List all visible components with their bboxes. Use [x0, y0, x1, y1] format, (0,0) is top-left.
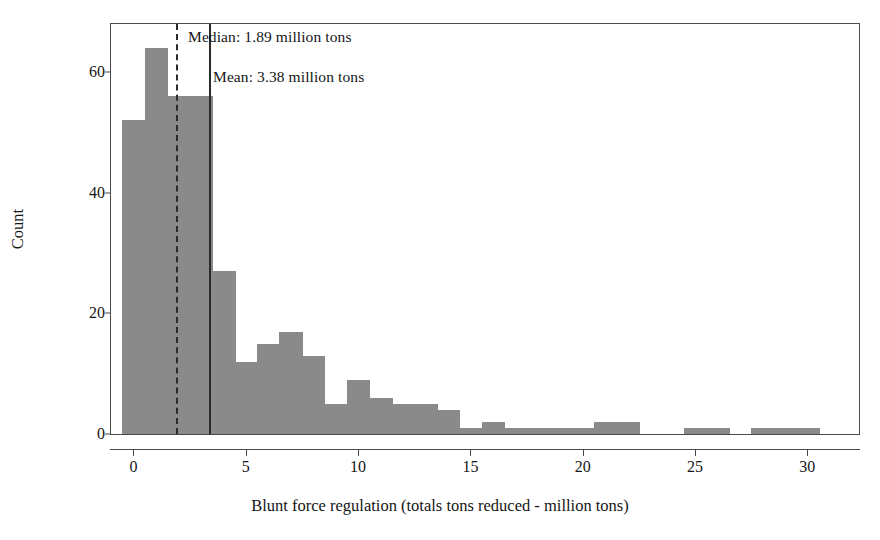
x-axis-tick-label: 15: [462, 458, 478, 476]
histogram-bar: [369, 398, 392, 434]
histogram-bar: [549, 428, 572, 434]
x-axis-tick-label: 20: [575, 458, 591, 476]
y-axis-tick-label: 0: [97, 425, 105, 443]
x-axis-tick-mark: [133, 449, 134, 456]
y-axis-tick-label: 20: [89, 304, 105, 322]
x-axis-tick-label: 30: [799, 458, 815, 476]
histogram-bar: [796, 428, 819, 434]
histogram-bar: [437, 410, 460, 434]
x-axis-tick-label: 5: [242, 458, 250, 476]
histogram-bar: [459, 428, 482, 434]
histogram-bar: [279, 332, 302, 435]
histogram-bar: [414, 404, 437, 434]
histogram-bar: [167, 96, 190, 434]
x-axis-tick-mark: [807, 449, 808, 456]
histogram-bar: [571, 428, 594, 434]
x-axis-tick-label: 25: [687, 458, 703, 476]
y-axis-tick-mark: [105, 313, 111, 314]
x-axis-tick-label: 10: [350, 458, 366, 476]
histogram-bar: [122, 120, 145, 434]
histogram-bar: [145, 48, 168, 434]
mean-reference-line: [209, 24, 211, 434]
median-annotation: Median: 1.89 million tons: [188, 28, 352, 46]
y-axis-tick-label: 40: [89, 184, 105, 202]
y-axis-tick-mark: [105, 72, 111, 73]
mean-annotation: Mean: 3.38 million tons: [213, 68, 364, 86]
histogram-bar: [212, 271, 235, 434]
histogram-bar: [302, 356, 325, 434]
histogram-bar: [392, 404, 415, 434]
y-axis-tick-mark: [105, 192, 111, 193]
median-reference-line: [176, 24, 178, 434]
x-axis-tick-mark: [470, 449, 471, 456]
histogram-bar: [684, 428, 707, 434]
x-axis-tick-label: 0: [129, 458, 137, 476]
histogram-bar: [324, 404, 347, 434]
histogram-bar: [257, 344, 280, 434]
histogram-bar: [347, 380, 370, 434]
y-axis-tick-mark: [105, 434, 111, 435]
x-axis-tick-mark: [695, 449, 696, 456]
y-axis-label: Count: [8, 209, 28, 249]
histogram-bar: [616, 422, 639, 434]
histogram-figure: 0204060 Count Blunt force regulation (to…: [0, 0, 880, 540]
histogram-bar: [751, 428, 774, 434]
histogram-bar: [706, 428, 729, 434]
histogram-bar: [774, 428, 797, 434]
x-axis-tick-mark: [583, 449, 584, 456]
histogram-bar: [482, 422, 505, 434]
histogram-bar: [235, 362, 258, 434]
x-axis-line: [110, 449, 860, 450]
x-axis-tick-mark: [358, 449, 359, 456]
histogram-bar: [504, 428, 527, 434]
x-axis-label: Blunt force regulation (totals tons redu…: [0, 496, 880, 516]
histogram-bar: [594, 422, 617, 434]
x-axis-tick-mark: [246, 449, 247, 456]
histogram-bar: [527, 428, 550, 434]
y-axis-tick-label: 60: [89, 63, 105, 81]
